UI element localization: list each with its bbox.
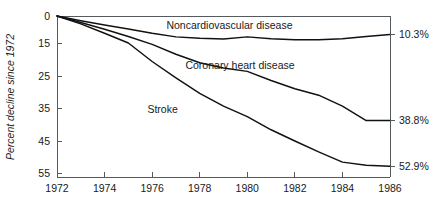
y-tick-label: 55 [38,167,50,179]
end-label-2: 38.8% [399,114,429,126]
series-annotation-2: Coronary heart disease [185,59,294,71]
x-tick-label: 1986 [378,182,402,194]
y-tick-label: 45 [38,135,50,147]
end-label-1: 10.3% [399,28,429,40]
line-chart: 01525354555 1972197419761978198019821984… [0,0,446,215]
y-tick-label: 35 [38,102,50,114]
end-label-3: 52.9% [399,160,429,172]
x-tick-label: 1978 [188,182,212,194]
y-tick-label: 0 [44,10,50,22]
x-tick-label: 1980 [236,182,260,194]
x-tick-label: 1984 [331,182,355,194]
x-tick-label: 1972 [45,182,69,194]
y-tick-label: 15 [38,37,50,49]
series-annotation-3: Stroke [147,103,178,115]
series-annotation-1: Noncardiovascular disease [166,19,292,31]
y-tick-label: 25 [38,70,50,82]
x-tick-label: 1974 [93,182,117,194]
x-tick-label: 1976 [140,182,164,194]
chart-figure: 01525354555 1972197419761978198019821984… [0,0,446,215]
x-tick-label: 1982 [283,182,307,194]
y-axis-title: Percent decline since 1972 [4,34,16,160]
